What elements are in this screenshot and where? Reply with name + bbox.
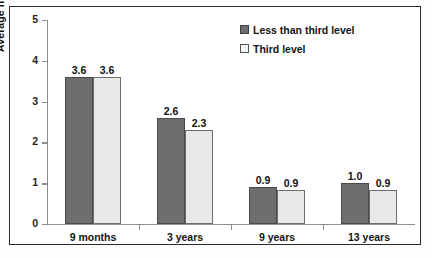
y-tick-label-2: 2 — [0, 136, 38, 147]
bar-less-than-third-level-9-years[interactable]: 0.9 — [249, 187, 277, 224]
chart-figure: Average number of GP visits 5 4 3 2 1 0 … — [0, 0, 432, 258]
legend-swatch-icon — [240, 25, 249, 34]
legend-label: Less than third level — [253, 24, 355, 36]
bar-third-level-9-years[interactable]: 0.9 — [277, 190, 305, 224]
bar-value-label: 0.9 — [376, 177, 391, 189]
y-axis-title: Average number of GP visits — [0, 0, 6, 52]
bar-less-than-third-level-9-months[interactable]: 3.6 — [65, 77, 93, 224]
x-separator-3 — [323, 224, 324, 230]
y-tick-4: 4 — [0, 61, 40, 62]
bar-value-label: 2.6 — [164, 105, 179, 117]
y-tick-label-5: 5 — [0, 14, 38, 25]
y-tick-5: 5 — [0, 20, 40, 21]
bar-value-label: 3.6 — [100, 64, 115, 76]
x-separator-1 — [139, 224, 140, 230]
y-tick-label-3: 3 — [0, 96, 38, 107]
legend-swatch-icon — [240, 44, 249, 53]
bar-group-3-years: 2.6 2.3 — [139, 20, 231, 224]
x-tick-label-9-months: 9 months — [47, 231, 139, 243]
y-tickmark-0 — [42, 224, 47, 225]
bar-value-label: 0.9 — [256, 174, 271, 186]
x-separator-2 — [231, 224, 232, 230]
legend-item-third-level[interactable]: Third level — [240, 41, 355, 56]
bar-third-level-3-years[interactable]: 2.3 — [185, 130, 213, 224]
bar-value-label: 2.3 — [192, 117, 207, 129]
bar-less-than-third-level-13-years[interactable]: 1.0 — [341, 183, 369, 224]
y-tick-label-4: 4 — [0, 55, 38, 66]
y-tick-3: 3 — [0, 102, 40, 103]
bar-less-than-third-level-3-years[interactable]: 2.6 — [157, 118, 185, 224]
y-tick-label-1: 1 — [0, 177, 38, 188]
bar-value-label: 1.0 — [348, 170, 363, 182]
x-tick-label-13-years: 13 years — [323, 231, 415, 243]
chart-legend: Less than third level Third level — [240, 22, 355, 60]
y-tick-0: 0 — [0, 224, 40, 225]
x-tick-label-3-years: 3 years — [139, 231, 231, 243]
x-tick-label-9-years: 9 years — [231, 231, 323, 243]
y-tick-1: 1 — [0, 183, 40, 184]
bar-third-level-9-months[interactable]: 3.6 — [93, 77, 121, 224]
legend-label: Third level — [253, 43, 306, 55]
bar-third-level-13-years[interactable]: 0.9 — [369, 190, 397, 224]
y-tick-label-0: 0 — [0, 218, 38, 229]
bar-value-label: 0.9 — [284, 177, 299, 189]
legend-item-less-than-third-level[interactable]: Less than third level — [240, 22, 355, 37]
bar-group-9-months: 3.6 3.6 — [47, 20, 139, 224]
y-tick-2: 2 — [0, 142, 40, 143]
bar-value-label: 3.6 — [72, 64, 87, 76]
